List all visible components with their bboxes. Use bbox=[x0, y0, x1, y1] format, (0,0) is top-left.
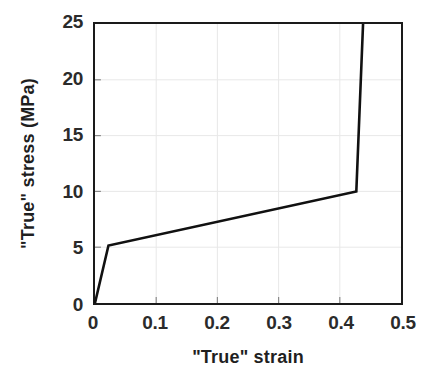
true-stress-strain-chart: 0510152025 00.10.20.30.40.5 "True" strai… bbox=[0, 0, 438, 382]
y-axis-tick-label: 0 bbox=[73, 294, 83, 316]
data-series-layer bbox=[95, 24, 401, 303]
y-axis-title: "True" stress (MPa) bbox=[18, 22, 52, 305]
y-axis-tick-label: 25 bbox=[62, 11, 83, 33]
y-axis-tick-label: 10 bbox=[62, 181, 83, 203]
x-axis-tick-label: 0.2 bbox=[204, 312, 230, 334]
y-axis-tick-label: 5 bbox=[73, 237, 83, 259]
data-line bbox=[95, 24, 363, 303]
y-axis-tick-label: 20 bbox=[62, 68, 83, 90]
plot-area bbox=[93, 22, 403, 305]
x-axis-tick-labels: 00.10.20.30.40.5 bbox=[93, 312, 403, 338]
x-axis-tick-label: 0.5 bbox=[390, 312, 416, 334]
x-axis-tick-label: 0.3 bbox=[266, 312, 292, 334]
x-axis-tick-label: 0.4 bbox=[328, 312, 354, 334]
x-axis-title: "True" strain bbox=[93, 347, 403, 368]
x-axis-tick-label: 0.1 bbox=[142, 312, 168, 334]
x-axis-tick-label: 0 bbox=[88, 312, 98, 334]
y-axis-tick-label: 15 bbox=[62, 124, 83, 146]
